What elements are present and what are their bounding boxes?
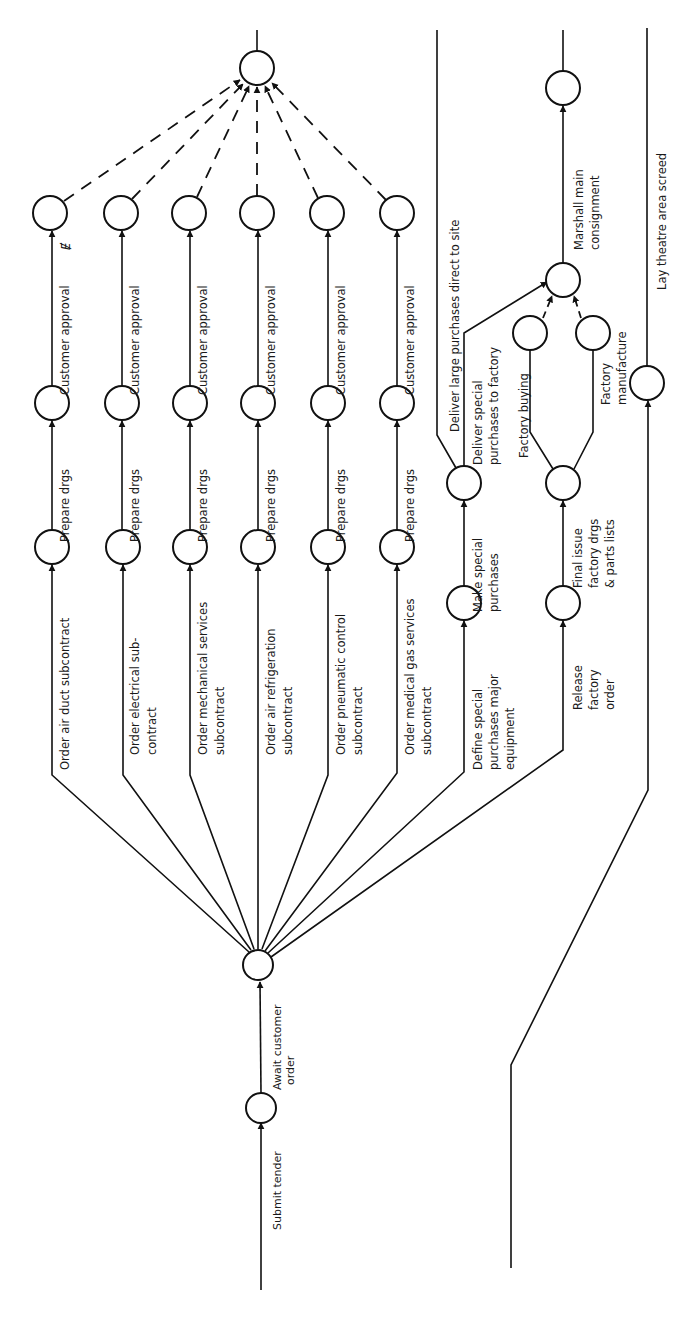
label-manufacture-2: manufacture [615,331,629,405]
label-order-1: Order mechanical services [196,602,210,755]
label-approval: Customer approval [264,285,278,395]
label-approval: Customer approval [128,285,142,395]
label-prepare: Prepare drgs [196,469,210,542]
event-node [33,196,67,230]
factory-chain: Release factory order Final issue factor… [513,30,629,710]
label-screed: Lay theatre area screed [655,153,669,290]
label-await-order-2: order [284,1055,297,1085]
dummy-edge-bought [543,296,552,318]
fan-edge-release-factory [271,621,563,957]
label-order-1: Order air refrigeration [264,628,278,755]
fan-edge-electrical [123,565,251,950]
label-submit-tender: Submit tender [271,1151,284,1230]
label-prepare: Prepare drgs [58,469,72,542]
network-diagram: Submit tender Await customer order Order… [0,0,674,1327]
label-final-issue-3: & parts lists [603,519,617,588]
label-marshall-2: consignment [588,175,602,250]
event-node [172,196,206,230]
label-approval: Customer approval [196,285,210,395]
subcontract-chain-6: Order medical gas services subcontract P… [380,196,434,755]
factory-buying-line [530,350,553,469]
event-node-manufactured [576,316,610,350]
subcontract-chain-2: Order electrical sub- contract Prepare d… [104,196,159,755]
subcontract-chain-3: Order mechanical services subcontract Pr… [172,196,227,755]
event-node-order-received [243,950,273,980]
label-order-1: Order medical gas services [403,598,417,755]
label-release-1: Release [571,665,585,710]
label-prepare: Prepare drgs [403,469,417,542]
fan-edge-pneumatic [262,565,328,949]
label-prepare: Prepare drgs [334,469,348,542]
label-approval: Customer approval [58,285,72,395]
label-order-2: subcontract [420,686,434,755]
label-final-issue-2: factory drgs [587,519,601,588]
label-order-2: subcontract [213,686,227,755]
label-define-3: equipment [503,707,517,770]
label-release-3: order [603,679,617,710]
event-node-tendered [246,1093,276,1123]
label-approval: Customer approval [334,285,348,395]
approval-convergence [64,30,386,201]
dummy-edge-3 [197,86,249,197]
label-order: Order air duct subcontract [58,617,72,770]
label-deliver-factory-1: Deliver special [471,380,485,465]
label-make-2: purchases [487,553,501,612]
label-make-1: Make special [471,538,485,612]
label-factory-buying: Factory buying [517,373,531,458]
label-deliver-site: Deliver large purchases direct to site [448,220,462,432]
label-order-2: contract [145,707,159,755]
label-await-order-1: Await customer [271,1004,284,1090]
event-node-purchased [447,466,481,500]
label-final-issue-1: Final issue [571,528,585,588]
label-marshall-1: Marshall main [572,169,586,250]
event-node [310,196,344,230]
fan-edge-define-special [268,621,464,953]
subcontract-chain-1: Order air duct subcontract Prepare drgs … [33,196,73,770]
label-prepare: Prepare drgs [264,469,278,542]
label-approval: Customer approval [403,285,417,395]
subcontract-chain-5: Order pneumatic control subcontract Prep… [310,196,365,755]
label-prepare: Prepare drgs [128,469,142,542]
label-order-1: Order electrical sub- [128,638,142,755]
label-release-2: factory [587,669,601,710]
event-node-consigned [546,71,580,105]
subcontract-chain-4: Order air refrigeration subcontract Prep… [240,196,295,755]
dummy-edge-1 [64,80,240,201]
fan-edge-air-duct [52,565,249,952]
label-define-1: Define special [471,689,485,770]
fan-edge-medical-gas [265,565,397,951]
margin-mark: Ɇ [59,242,73,250]
label-manufacture-1: Factory [599,363,613,405]
event-node [104,196,138,230]
event-node-screed-start [630,366,664,400]
label-deliver-factory-2: purchases to factory [487,347,501,465]
dummy-edge-6 [272,83,386,200]
label-order-2: subcontract [351,686,365,755]
event-node-consignment-ready [546,263,580,297]
start-chain: Submit tender Await customer order [243,950,297,1290]
label-define-2: purchases major [487,674,501,770]
label-order-1: Order pneumatic control [334,614,348,755]
dummy-edge-manufactured [574,296,581,318]
event-node-bought [513,316,547,350]
event-node-order-released [546,586,580,620]
factory-manufacture-line [574,350,593,469]
await-order-arrow [260,982,261,1093]
event-node [240,196,274,230]
event-node-drgs-issued [546,466,580,500]
dummy-edge-2 [132,84,243,199]
event-node [380,196,414,230]
event-node-all-approvals [240,51,274,85]
label-order-2: subcontract [281,686,295,755]
